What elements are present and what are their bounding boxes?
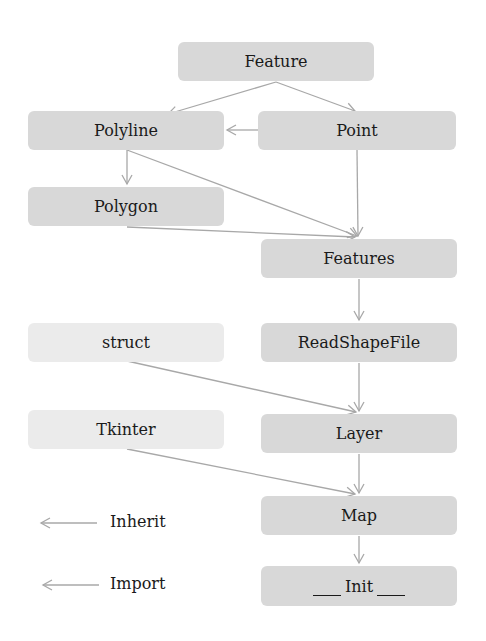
legend-inherit-label: Inherit xyxy=(110,512,166,531)
edge-point-features xyxy=(357,150,358,236)
node-label: Point xyxy=(336,121,378,140)
edge-tkinter-map xyxy=(127,449,355,494)
edge-feature-point xyxy=(276,82,355,111)
node-label: Layer xyxy=(336,424,382,443)
legend-import-label: Import xyxy=(110,574,165,593)
node-layer: Layer xyxy=(261,414,457,453)
node-label: ReadShapeFile xyxy=(298,333,421,352)
edge-struct-layer xyxy=(127,361,356,412)
node-init: Init xyxy=(261,566,457,606)
edge-polygon-features xyxy=(127,227,355,237)
node-features: Features xyxy=(261,239,457,278)
node-label: Polygon xyxy=(94,197,158,216)
edge-feature-polyline xyxy=(168,82,276,114)
node-feature: Feature xyxy=(178,42,374,81)
node-polygon: Polygon xyxy=(28,187,224,226)
underscore-left xyxy=(313,595,341,596)
node-label: Features xyxy=(323,249,394,268)
node-label: Map xyxy=(341,506,377,525)
node-point: Point xyxy=(258,111,456,150)
node-label: Feature xyxy=(244,52,307,71)
node-polyline: Polyline xyxy=(28,111,224,150)
init-label-group: Init xyxy=(313,577,405,596)
node-label: Tkinter xyxy=(96,420,155,439)
underscore-right xyxy=(377,595,405,596)
node-map: Map xyxy=(261,496,457,535)
node-label: Init xyxy=(345,577,373,596)
node-tkinter: Tkinter xyxy=(28,410,224,449)
node-readshapefile: ReadShapeFile xyxy=(261,323,457,362)
node-struct: struct xyxy=(28,323,224,362)
node-label: Polyline xyxy=(94,121,158,140)
edges-layer xyxy=(0,0,486,641)
node-label: struct xyxy=(102,333,150,352)
